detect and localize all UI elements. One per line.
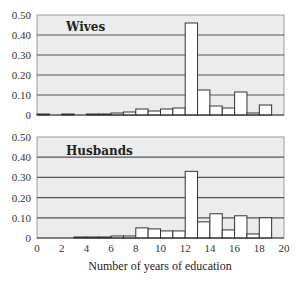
husbands-bar <box>173 231 185 238</box>
husbands-bar <box>210 214 222 238</box>
husbands-bar <box>185 171 197 238</box>
husbands-bar <box>161 231 173 238</box>
x-tick-label: 20 <box>279 242 291 254</box>
wives-bar <box>198 90 210 115</box>
husbands-bar <box>235 216 247 238</box>
husbands-bar <box>222 230 234 238</box>
wives-bar <box>136 109 148 115</box>
husbands-panel-label: Husbands <box>66 144 133 158</box>
husbands-bar <box>136 228 148 238</box>
wives-panel-label: Wives <box>65 20 105 34</box>
x-tick-label: 14 <box>204 242 216 254</box>
y-tick-label: 0.50 <box>12 131 32 143</box>
wives-bar <box>222 108 234 115</box>
x-tick-label: 8 <box>133 242 139 254</box>
y-tick-label: 0.40 <box>12 151 32 163</box>
wives-panel: 00.100.200.300.400.50 <box>12 9 284 121</box>
y-tick-label: 0.10 <box>12 89 32 101</box>
wives-bar <box>173 108 185 115</box>
y-tick-label: 0.10 <box>12 212 32 224</box>
x-tick-label: 12 <box>180 242 191 254</box>
x-axis-label: Number of years of education <box>88 259 231 273</box>
y-tick-label: 0.50 <box>12 9 32 21</box>
x-tick-label: 18 <box>254 242 266 254</box>
education-histogram-chart: 00.100.200.300.400.50 00.100.200.300.400… <box>0 0 300 282</box>
y-tick-label: 0.30 <box>12 49 32 61</box>
wives-bar <box>148 111 160 115</box>
wives-bar <box>259 105 271 115</box>
y-tick-label: 0 <box>26 109 32 121</box>
wives-bar <box>161 109 173 115</box>
y-tick-label: 0.20 <box>12 69 32 81</box>
wives-bar <box>235 92 247 115</box>
y-tick-label: 0.40 <box>12 29 32 41</box>
husbands-bar <box>198 222 210 238</box>
x-tick-label: 16 <box>229 242 241 254</box>
husbands-panel: 00.100.200.300.400.50 <box>12 131 284 244</box>
wives-bar <box>185 23 197 115</box>
x-tick-label: 10 <box>155 242 167 254</box>
x-tick-label: 2 <box>59 242 65 254</box>
x-tick-label: 4 <box>84 242 90 254</box>
wives-bar <box>210 106 222 115</box>
y-tick-label: 0.20 <box>12 192 32 204</box>
x-tick-label: 6 <box>108 242 114 254</box>
y-tick-label: 0.30 <box>12 171 32 183</box>
husbands-bar <box>148 229 160 238</box>
y-tick-label: 0 <box>26 232 32 244</box>
husbands-bar <box>259 218 271 238</box>
x-tick-label: 0 <box>34 242 40 254</box>
x-axis: 02468101214161820 <box>34 242 290 254</box>
husbands-bar <box>247 234 259 238</box>
